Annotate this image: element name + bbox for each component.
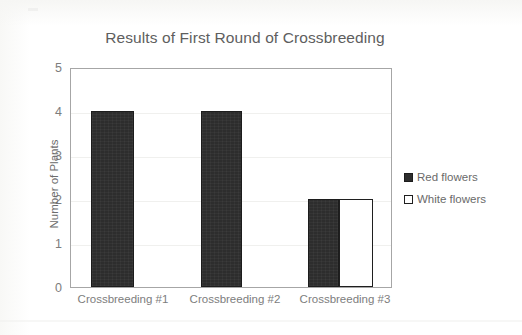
chart-screenshot: Results of First Round of Crossbreeding … [0,0,522,335]
chart-title: Results of First Round of Crossbreeding [0,29,490,47]
bar-chart: Results of First Round of Crossbreeding … [0,0,522,335]
bar-crossbreeding-3-red [308,199,339,287]
legend-label-white-flowers: White flowers [417,193,486,205]
legend-item-red-flowers: Red flowers [404,166,519,188]
legend-swatch-white-icon [404,195,413,204]
plot-area [70,68,392,288]
bar-crossbreeding-1-red [91,111,134,287]
y-tick-0: 0 [38,281,62,295]
bar-crossbreeding-3-white [339,199,373,287]
y-axis-title: Number of Plants [48,104,60,264]
chart-legend: Red flowers White flowers [404,166,519,210]
legend-item-white-flowers: White flowers [404,188,519,210]
x-label-crossbreeding-3: Crossbreeding #3 [290,293,400,305]
bar-crossbreeding-2-red [201,111,242,287]
x-label-crossbreeding-2: Crossbreeding #2 [180,293,290,305]
legend-label-red-flowers: Red flowers [417,171,478,183]
y-tick-5: 5 [38,61,62,75]
legend-swatch-red-icon [404,173,413,182]
x-label-crossbreeding-1: Crossbreeding #1 [68,293,178,305]
